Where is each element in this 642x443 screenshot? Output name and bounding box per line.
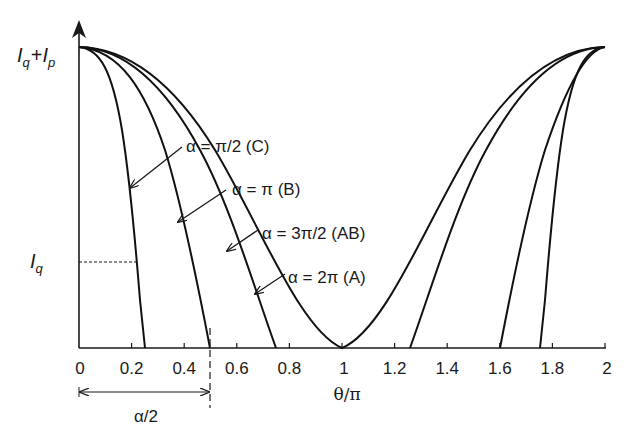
- tick-label: 2: [602, 359, 611, 378]
- half-alpha-label: α/2: [134, 407, 158, 426]
- axes: [72, 20, 606, 348]
- annotation-a: α = 2π (A): [288, 268, 366, 287]
- tick-label: 1.4: [435, 359, 459, 378]
- iq-label: Iq: [30, 250, 44, 276]
- x-tick-labels: 0 0.2 0.4 0.6 0.8 1 1.2 1.4 1.6 1.8 2: [75, 359, 611, 378]
- tick-label: 0.4: [172, 359, 196, 378]
- tick-label: 0: [75, 359, 84, 378]
- curves: [79, 47, 605, 348]
- intensity-chart: 0 0.2 0.4 0.6 0.8 1 1.2 1.4 1.6 1.8 2 θ/…: [0, 0, 642, 443]
- y-axis-label: Iq+Ip: [17, 44, 55, 70]
- x-ticks: [132, 343, 605, 348]
- svg-text:Iq+Ip: Iq+Ip: [17, 44, 55, 70]
- curve-a: [79, 47, 605, 348]
- tick-label: 1.6: [488, 359, 512, 378]
- tick-label: 0.8: [278, 359, 302, 378]
- curve-ab: [79, 47, 605, 348]
- annotation-arrows: [130, 147, 285, 294]
- annotation-ab: α = 3π/2 (AB): [262, 224, 365, 243]
- tick-label: 1.2: [383, 359, 407, 378]
- curve-c: [79, 47, 605, 348]
- arrow-a: [255, 274, 285, 294]
- x-axis-label: θ/π: [333, 384, 360, 404]
- tick-label: 1.8: [541, 359, 565, 378]
- svg-text:Iq: Iq: [30, 250, 44, 276]
- tick-label: 0.2: [120, 359, 144, 378]
- tick-label: 1: [339, 359, 348, 378]
- arrow-ab: [227, 230, 258, 251]
- curve-b: [79, 47, 605, 348]
- arrow-b: [178, 190, 226, 222]
- annotation-c: α = π/2 (C): [186, 137, 269, 156]
- tick-label: 0.6: [225, 359, 249, 378]
- annotation-b: α = π (B): [232, 180, 300, 199]
